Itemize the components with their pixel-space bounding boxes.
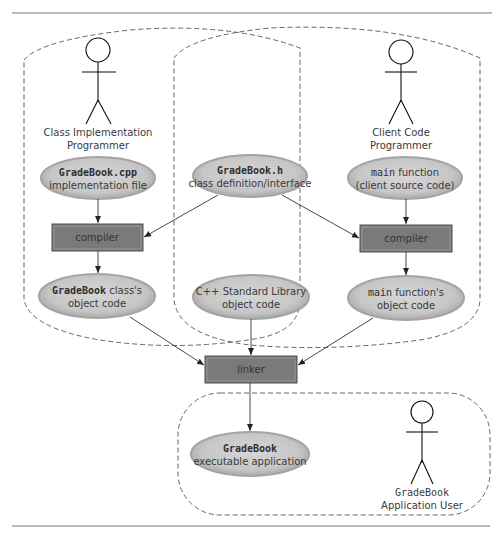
- svg-text:main function's: main function's: [368, 287, 444, 298]
- linker-box: linker: [205, 356, 297, 383]
- actor-label-class-impl-2: Programmer: [67, 140, 130, 151]
- compiler-right-box: compiler: [360, 225, 452, 252]
- svg-text:GradeBook: GradeBook: [223, 443, 277, 454]
- svg-text:GradeBook.h: GradeBook.h: [217, 165, 283, 176]
- svg-text:object code: object code: [377, 300, 435, 311]
- actor-label-client: Client Code: [372, 127, 430, 138]
- actor-label-user: GradeBook: [395, 487, 449, 498]
- actor-application-user-icon: [406, 401, 438, 484]
- svg-text:(client source code): (client source code): [356, 180, 455, 191]
- actor-client-code-programmer-icon: [385, 40, 417, 124]
- svg-text:object code: object code: [68, 298, 126, 309]
- svg-text:executable application: executable application: [193, 456, 306, 467]
- node-main-object-code: main function's object code: [348, 276, 464, 320]
- svg-text:GradeBook.cpp: GradeBook.cpp: [59, 167, 137, 178]
- actor-label-client-2: Programmer: [370, 140, 433, 151]
- svg-text:implementation file: implementation file: [49, 180, 147, 191]
- svg-text:linker: linker: [237, 364, 265, 375]
- actor-label-class-impl: Class Implementation: [44, 127, 153, 138]
- svg-text:GradeBook class's: GradeBook class's: [52, 285, 142, 296]
- node-cpp-standard-library-object-code: C++ Standard Library object code: [193, 275, 309, 319]
- compiler-left-box: compiler: [52, 224, 143, 251]
- svg-text:main function: main function: [371, 167, 439, 178]
- svg-text:C++ Standard Library: C++ Standard Library: [196, 286, 307, 297]
- compilation-linking-diagram: Class Implementation Programmer Client C…: [0, 0, 503, 534]
- node-gradebook-h: GradeBook.h class definition/interface: [188, 155, 311, 197]
- node-gradebook-object-code: GradeBook class's object code: [39, 274, 155, 318]
- node-main-function: main function (client source code): [348, 157, 462, 199]
- actor-label-user-2: Application User: [381, 500, 464, 511]
- svg-text:object code: object code: [222, 299, 280, 310]
- svg-text:compiler: compiler: [75, 232, 119, 243]
- node-gradebook-cpp: GradeBook.cpp implementation file: [41, 157, 155, 199]
- svg-text:compiler: compiler: [384, 233, 428, 244]
- node-gradebook-executable: GradeBook executable application: [191, 432, 309, 476]
- actor-class-implementation-programmer-icon: [82, 38, 116, 124]
- svg-text:class definition/interface: class definition/interface: [188, 178, 311, 189]
